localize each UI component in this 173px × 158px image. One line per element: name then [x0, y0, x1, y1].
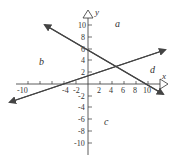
x-tick-label: 4: [109, 86, 113, 95]
y-tick-label: 8: [81, 33, 85, 42]
y-tick-label: -4: [78, 103, 85, 112]
y-axis-label: y: [94, 7, 99, 17]
coordinate-plane: y x -10 -4 -2 2 4 6 8 10 10 8 6 4 2 -2 -…: [0, 0, 173, 158]
y-tick-label: -8: [78, 127, 85, 136]
x-tick-label: 6: [121, 86, 125, 95]
x-tick-label: 2: [97, 86, 101, 95]
x-tick-label: 8: [133, 86, 137, 95]
y-tick-label: 2: [81, 68, 85, 77]
region-label-a: a: [115, 18, 120, 29]
x-tick-label: 10: [143, 86, 151, 95]
increasing-line-end: [10, 50, 165, 102]
x-axis-label: x: [161, 71, 166, 81]
y-tick-label: -10: [74, 139, 85, 148]
region-label-b: b: [39, 56, 44, 67]
x-tick-label: -4: [62, 86, 69, 95]
y-tick-label: 4: [81, 56, 85, 65]
region-label-c: c: [104, 116, 109, 127]
x-tick-label: -10: [17, 86, 28, 95]
region-label-d: d: [150, 64, 156, 75]
y-tick-label: -2: [78, 92, 85, 101]
y-tick-label: 10: [78, 21, 86, 30]
y-axis-arrow-icon: [83, 10, 93, 18]
y-tick-label: -6: [78, 115, 85, 124]
